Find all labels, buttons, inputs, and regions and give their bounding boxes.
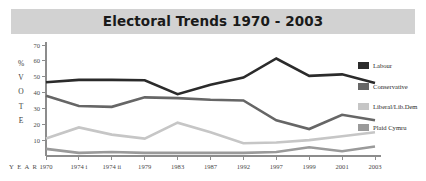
x-tick-label: 1999 bbox=[303, 163, 316, 170]
series-line-conservative bbox=[46, 96, 375, 129]
page-title: Electoral Trends 1970 - 2003 bbox=[11, 9, 415, 34]
x-tick-label: 1970 bbox=[39, 163, 52, 170]
legend-item-label: Conservative bbox=[373, 82, 408, 91]
x-tick-label: 1997 bbox=[270, 163, 283, 170]
series-line-liberal-lib-dem bbox=[46, 123, 375, 144]
chart-legend: LabourConservativeLiberal/Lib.DemPlaid C… bbox=[358, 61, 426, 143]
legend-item-label: Plaid Cymru bbox=[373, 123, 407, 132]
legend-item-label: Labour bbox=[373, 61, 392, 70]
series-line-plaid-cymru bbox=[46, 146, 375, 152]
legend-swatch-icon bbox=[358, 62, 369, 69]
x-tick-label: 2003 bbox=[368, 163, 381, 170]
x-tick-label: 1974 ii bbox=[103, 163, 122, 170]
legend-swatch-icon bbox=[358, 124, 369, 131]
legend-item-conservative[interactable]: Conservative bbox=[358, 82, 426, 92]
x-tick-label: 1987 bbox=[204, 163, 217, 170]
x-tick-label: 1983 bbox=[171, 163, 184, 170]
x-tick-label: 1979 bbox=[138, 163, 151, 170]
legend-item-liberal-lib-dem[interactable]: Liberal/Lib.Dem bbox=[358, 102, 426, 112]
legend-item-labour[interactable]: Labour bbox=[358, 61, 426, 71]
legend-swatch-icon bbox=[358, 103, 369, 110]
legend-item-label: Liberal/Lib.Dem bbox=[373, 102, 418, 111]
chart-title-band: Electoral Trends 1970 - 2003 bbox=[11, 9, 415, 34]
legend-swatch-icon bbox=[358, 83, 369, 90]
series-line-labour bbox=[46, 58, 375, 94]
electoral-trends-chart: Electoral Trends 1970 - 2003 % V O T E 7… bbox=[0, 0, 426, 181]
legend-item-plaid-cymru[interactable]: Plaid Cymru bbox=[358, 123, 426, 133]
x-tick-label: 2001 bbox=[336, 163, 349, 170]
x-tick-label: 1992 bbox=[237, 163, 250, 170]
x-tick-label: 1974 i bbox=[71, 163, 88, 170]
x-axis-caption: Y E A R bbox=[9, 163, 38, 170]
series-lines bbox=[46, 58, 375, 152]
